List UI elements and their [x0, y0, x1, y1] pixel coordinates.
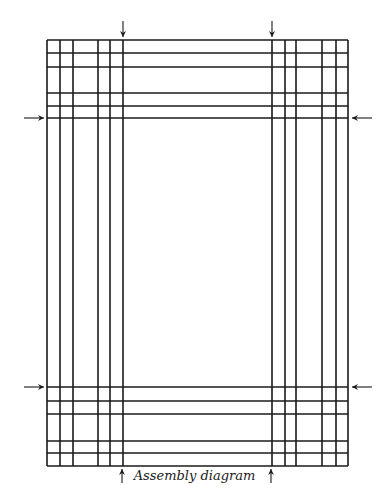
grid-lines: [47, 40, 348, 466]
arrow-left-upper-icon: [24, 115, 44, 121]
diagram-caption: Assembly diagram: [0, 468, 385, 483]
arrow-top-right-icon: [269, 21, 275, 37]
arrow-left-lower-icon: [24, 384, 44, 390]
arrow-top-left-icon: [120, 21, 126, 37]
caption-text: Assembly diagram: [134, 468, 256, 483]
arrow-right-upper-icon: [352, 115, 372, 121]
arrow-right-lower-icon: [352, 384, 372, 390]
assembly-diagram: [0, 0, 385, 496]
